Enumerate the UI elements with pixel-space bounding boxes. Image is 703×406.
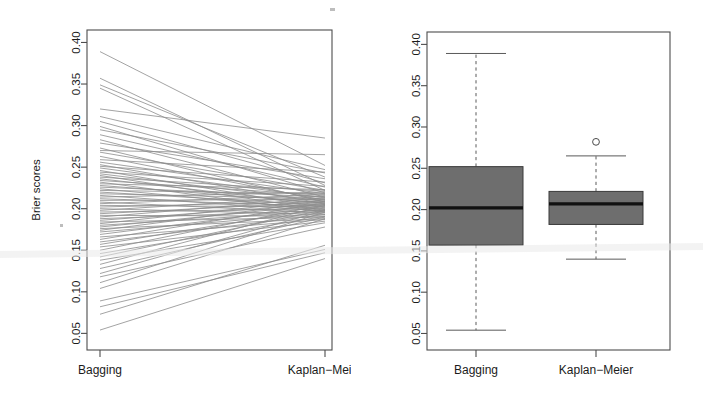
- figure-canvas: Brier scores 0.050.100.150.200.250.300.3…: [0, 0, 703, 406]
- boxplot-svg: [351, 0, 703, 406]
- panel-background: [351, 0, 703, 406]
- slope-plot-svg: [0, 0, 352, 406]
- panel-boxplot: 0.050.100.150.200.250.300.350.40BaggingK…: [351, 0, 703, 406]
- box-iqr: [549, 191, 643, 224]
- panel-slope-plot: Brier scores 0.050.100.150.200.250.300.3…: [0, 0, 352, 406]
- box-iqr: [429, 167, 523, 245]
